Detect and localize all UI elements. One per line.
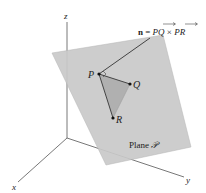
- svg-text:n = PQ × PR: n = PQ × PR: [138, 27, 186, 37]
- x-axis: [18, 138, 67, 182]
- point-r: [111, 116, 114, 119]
- label-p: P: [87, 69, 94, 80]
- point-q: [128, 82, 131, 85]
- label-z-axis: z: [63, 11, 68, 21]
- normal-formula: n = PQ × PR: [138, 23, 198, 38]
- label-r: R: [115, 114, 122, 125]
- plane-diagram: P Q R z x y n = PQ × PR Plane 𝒫: [0, 0, 206, 193]
- point-p: [97, 72, 100, 75]
- label-x-axis: x: [11, 182, 16, 192]
- label-y-axis: y: [185, 175, 190, 185]
- label-q: Q: [133, 79, 141, 90]
- plane-label: Plane 𝒫: [129, 140, 160, 150]
